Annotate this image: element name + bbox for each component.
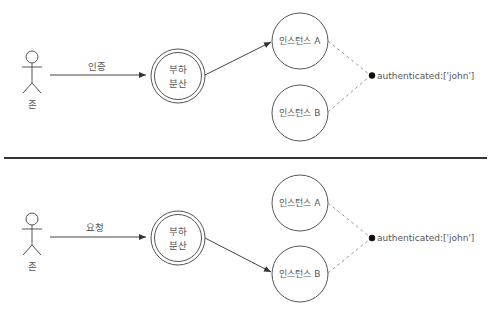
session-link-b (328, 76, 370, 112)
instance-b-node: 인스턴스 B (272, 85, 328, 141)
panel-bottom: 존 요청 부하 분산 인스턴스 A 인스턴스 B authenticated:[… (22, 175, 474, 302)
session-link-a (328, 41, 370, 75)
actor-label: 존 (28, 99, 37, 110)
actor-john (22, 51, 42, 93)
actor-head-icon (26, 213, 38, 225)
load-balancer-node: 부하 분산 (151, 211, 205, 265)
session-store-dot-icon (369, 235, 375, 241)
instance-a-label: 인스턴스 A (279, 198, 321, 208)
lb-label-line1: 부하 (169, 64, 187, 75)
instance-a-label: 인스턴스 A (279, 36, 321, 46)
diagram-canvas: 존 인증 부하 분산 인스턴스 A 인스턴스 B authenticated:[… (0, 0, 489, 312)
route-arrow-to-a (205, 42, 271, 75)
route-arrow-to-b (205, 238, 271, 272)
lb-label-line1: 부하 (169, 226, 187, 237)
edge-label: 요청 (86, 222, 104, 233)
session-label: authenticated:['john'] (377, 233, 474, 243)
instance-b-node: 인스턴스 B (272, 246, 328, 302)
edge-label: 인증 (88, 61, 106, 72)
session-link-b (328, 239, 370, 273)
instance-a-node: 인스턴스 A (272, 13, 328, 69)
instance-a-node: 인스턴스 A (272, 175, 328, 231)
actor-label: 존 (28, 261, 37, 272)
actor-head-icon (26, 51, 38, 63)
instance-b-label: 인스턴스 B (279, 108, 320, 118)
session-link-a (328, 203, 370, 237)
lb-label-line2: 분산 (169, 78, 187, 89)
load-balancer-node: 부하 분산 (151, 49, 205, 103)
actor-john (22, 213, 42, 255)
session-store-dot-icon (369, 72, 375, 78)
session-label: authenticated:['john'] (377, 71, 474, 81)
panel-top: 존 인증 부하 분산 인스턴스 A 인스턴스 B authenticated:[… (22, 13, 474, 141)
instance-b-label: 인스턴스 B (279, 269, 320, 279)
lb-label-line2: 분산 (169, 240, 187, 251)
